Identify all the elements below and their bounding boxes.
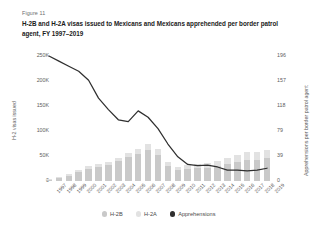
y-axis-right-tick: 39 bbox=[277, 153, 303, 158]
y-axis-right-tick: 157 bbox=[277, 78, 303, 83]
x-axis-tick-label: 2019 bbox=[273, 182, 285, 194]
y-axis-left-label: H-2 visas issued bbox=[11, 101, 17, 140]
circle-icon bbox=[170, 211, 175, 216]
legend-item-label: H-2B bbox=[110, 211, 123, 217]
legend-item[interactable]: H-2B bbox=[102, 211, 123, 217]
legend-item[interactable]: Apprehensions bbox=[170, 211, 216, 217]
circle-icon bbox=[136, 211, 141, 216]
figure-number: Figure 11 bbox=[22, 10, 45, 16]
figure-panel: Figure 11 H-2B and H-2A visas issued to … bbox=[0, 0, 317, 243]
y-axis-right-tick: 196 bbox=[277, 53, 303, 58]
legend-item-label: H-2A bbox=[144, 211, 157, 217]
y-axis-right-tick: 79 bbox=[277, 128, 303, 133]
y-axis-right-label: Apprehensions per border patrol agent bbox=[303, 85, 309, 176]
apprehensions-line-series bbox=[44, 56, 272, 181]
plot-area bbox=[44, 56, 272, 181]
chart-legend: H-2BH-2AApprehensions bbox=[0, 211, 317, 217]
y-axis-right-tick: 118 bbox=[277, 103, 303, 108]
legend-item[interactable]: H-2A bbox=[136, 211, 157, 217]
x-axis-tick-labels: 1997199819992000200120022003200420052006… bbox=[44, 182, 272, 208]
x-axis-tick-label: 2011 bbox=[194, 182, 206, 194]
circle-icon bbox=[102, 211, 107, 216]
figure-title: H-2B and H-2A visas issued to Mexicans a… bbox=[22, 19, 296, 39]
legend-item-label: Apprehensions bbox=[178, 211, 215, 217]
